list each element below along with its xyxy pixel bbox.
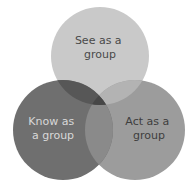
label-line: group: [133, 129, 165, 142]
label-line: Act as a: [125, 115, 169, 128]
label-line: See as a: [75, 34, 122, 47]
label-line: a group: [32, 129, 74, 142]
label-know-as-a-group: Know as a group: [28, 115, 77, 142]
label-line: group: [84, 48, 116, 61]
label-line: Know as: [28, 115, 74, 128]
venn-diagram: See as a group Know as a group Act as a …: [0, 0, 193, 191]
